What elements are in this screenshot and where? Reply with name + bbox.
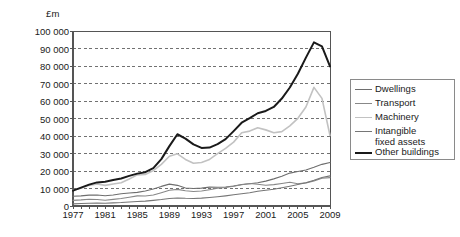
x-axis-tick-label: 1993 xyxy=(191,209,212,220)
x-axis-tick-label: 2009 xyxy=(319,209,340,220)
x-axis-tick-label: 1997 xyxy=(223,209,244,220)
legend-item-label: Intangiblefixed assets xyxy=(375,126,425,147)
x-axis-tick-label: 2005 xyxy=(287,209,308,220)
legend-item-label: Transport xyxy=(375,98,415,109)
legend-item-label: Machinery xyxy=(375,112,419,123)
legend-item[interactable]: Other buildings xyxy=(355,147,439,158)
x-axis-tick-label: 1977 xyxy=(62,209,83,220)
x-axis-tick-label: 1981 xyxy=(95,209,116,220)
legend-item[interactable]: Machinery xyxy=(355,112,419,123)
chart-figure: £m 100 00090 00080 00070 00060 00050 000… xyxy=(0,0,460,237)
legend-line-icon xyxy=(355,131,372,132)
legend-item-label-line2: fixed assets xyxy=(375,136,425,147)
x-axis-tick-label: 2001 xyxy=(255,209,276,220)
legend-line-icon xyxy=(355,89,372,90)
legend-line-icon xyxy=(355,117,372,118)
legend-item[interactable]: Intangiblefixed assets xyxy=(355,126,425,147)
x-axis-tick-label: 1985 xyxy=(127,209,148,220)
legend-item[interactable]: Dwellings xyxy=(355,84,416,95)
x-axis-tick-label: 1989 xyxy=(159,209,180,220)
legend-item[interactable]: Transport xyxy=(355,98,415,109)
legend-line-icon xyxy=(355,152,372,154)
legend-item-label: Dwellings xyxy=(375,84,416,95)
chart-legend: DwellingsTransportMachineryIntangiblefix… xyxy=(350,79,455,160)
legend-line-icon xyxy=(355,103,372,104)
legend-item-label: Other buildings xyxy=(375,147,439,158)
